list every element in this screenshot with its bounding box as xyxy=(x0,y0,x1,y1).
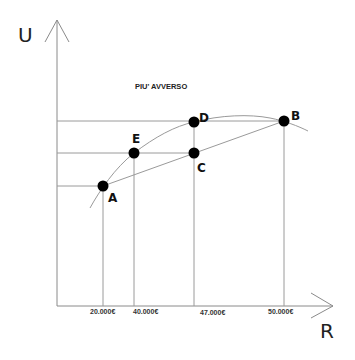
point-d xyxy=(189,117,200,128)
tick-label-50000: 50.000€ xyxy=(268,308,293,315)
label-a: A xyxy=(108,191,118,205)
label-b: B xyxy=(291,109,300,123)
diagram-title: PIU' AVVERSO xyxy=(135,82,187,91)
label-d: D xyxy=(199,111,209,125)
label-e: E xyxy=(132,132,140,146)
point-b xyxy=(279,116,290,127)
tick-label-20000: 20.000€ xyxy=(90,308,115,315)
y-axis-label: U xyxy=(18,23,33,47)
tick-label-40000: 40.000€ xyxy=(133,308,158,315)
label-c: C xyxy=(197,161,206,175)
y-axis xyxy=(45,20,69,306)
point-a xyxy=(98,181,109,192)
x-axis-label: R xyxy=(320,319,334,343)
tick-label-47000: 47.000€ xyxy=(200,309,225,316)
point-c xyxy=(189,148,200,159)
utility-diagram: A B C D E U R PIU' AVVERSO 20.000€ 40.00… xyxy=(0,0,355,360)
point-e xyxy=(129,148,140,159)
